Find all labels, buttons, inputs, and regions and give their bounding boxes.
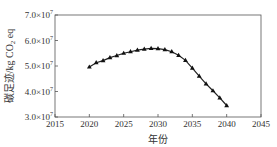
y-axis-label: 碳足迹/kg CO2 eq	[3, 29, 17, 104]
x-axis-ticks: 2015202020252030203520402045	[46, 114, 271, 129]
y-tick-label: 6.0×107	[25, 35, 53, 46]
x-tick-label: 2045	[252, 119, 271, 129]
y-tick-label: 7.0×107	[25, 9, 53, 20]
x-tick-label: 2025	[115, 119, 134, 129]
x-tick-label: 2020	[80, 119, 99, 129]
plot-axes	[55, 15, 261, 117]
y-tick-label: 5.0×107	[25, 60, 53, 71]
x-tick-label: 2035	[183, 119, 202, 129]
y-tick-label: 4.0×107	[25, 86, 53, 97]
x-tick-label: 2040	[218, 119, 237, 129]
x-axis-label: 年份	[148, 133, 168, 145]
carbon-footprint-chart: 3.0×1074.0×1075.0×1076.0×1077.0×107 2015…	[0, 0, 277, 147]
y-axis-ticks: 3.0×1074.0×1075.0×1076.0×1077.0×107	[25, 9, 58, 122]
x-tick-label: 2015	[46, 119, 65, 129]
x-tick-label: 2030	[149, 119, 168, 129]
data-series-line	[87, 46, 229, 107]
